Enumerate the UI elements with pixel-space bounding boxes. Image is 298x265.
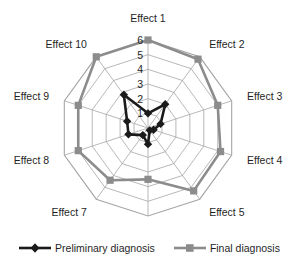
- axis-label-effect-10: Effect 10: [46, 38, 87, 50]
- axis-label-effect-3: Effect 3: [247, 90, 283, 102]
- legend-label-final: Final diagnosis: [210, 242, 280, 254]
- legend-symbol-preliminary-diamond-icon: [18, 242, 52, 254]
- radar-chart-svg: 123456 Effect 1Effect 2Effect 3Effect 4E…: [0, 0, 298, 232]
- axis-label-effect-2: Effect 2: [209, 38, 245, 50]
- marker-final-3: [214, 102, 221, 109]
- radial-tick-6: 6: [137, 34, 143, 46]
- legend-item-preliminary: Preliminary diagnosis: [18, 242, 155, 254]
- axis-label-effect-1: Effect 1: [130, 12, 166, 24]
- marker-preliminary-8: [124, 130, 132, 138]
- radial-tick-1: 1: [137, 107, 143, 119]
- axis-label-effect-9: Effect 9: [14, 90, 50, 102]
- axis-spoke-7: [96, 128, 148, 199]
- legend-symbol-final-square-icon: [173, 242, 207, 254]
- axis-label-effect-4: Effect 4: [247, 154, 283, 166]
- marker-final-1: [144, 36, 151, 43]
- marker-final-10: [93, 53, 100, 60]
- radial-tick-4: 4: [137, 63, 143, 75]
- radial-tick-5: 5: [137, 49, 143, 61]
- marker-final-5: [190, 187, 197, 194]
- legend-label-preliminary: Preliminary diagnosis: [55, 242, 155, 254]
- axis-label-effect-7: Effect 7: [51, 206, 87, 218]
- marker-preliminary-9: [123, 117, 131, 125]
- radar-chart: 123456 Effect 1Effect 2Effect 3Effect 4E…: [0, 0, 298, 232]
- tick-labels-layer: 123456: [137, 34, 143, 119]
- marker-final-4: [217, 148, 224, 155]
- marker-final-6: [144, 176, 151, 183]
- marker-final-7: [106, 177, 113, 184]
- marker-final-2: [194, 56, 201, 63]
- marker-final-8: [75, 147, 82, 154]
- axis-label-effect-5: Effect 5: [209, 206, 245, 218]
- radial-tick-2: 2: [137, 93, 143, 105]
- axis-spoke-2: [148, 57, 200, 128]
- axis-label-effect-8: Effect 8: [14, 154, 50, 166]
- marker-final-9: [75, 102, 82, 109]
- chart-legend: Preliminary diagnosis Final diagnosis: [0, 230, 298, 265]
- legend-item-final: Final diagnosis: [173, 242, 280, 254]
- radial-tick-3: 3: [137, 78, 143, 90]
